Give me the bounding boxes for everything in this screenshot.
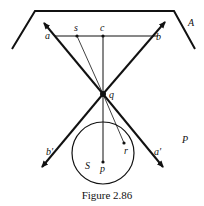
label-q: q (109, 89, 114, 100)
label-s: s (74, 22, 78, 33)
label-r: r (124, 145, 128, 156)
label-a: a (45, 30, 50, 41)
point-q (100, 91, 106, 97)
point-s (75, 34, 78, 37)
figure-caption: Figure 2.86 (82, 189, 133, 201)
label-c: c (100, 22, 105, 33)
label-b: b (156, 31, 161, 42)
label-S: S (85, 160, 90, 171)
line-sq (77, 36, 103, 94)
label-p: p (99, 163, 105, 174)
label-P: P (181, 134, 188, 145)
label-a-prime: a′ (154, 146, 162, 157)
figure-diagram: A a s c b q b′ a′ r S p P Figure 2.86 (0, 0, 204, 206)
line-qr (103, 94, 124, 143)
label-b-prime: b′ (46, 146, 54, 157)
point-c (101, 34, 104, 37)
arrow-q-to-a (44, 23, 103, 94)
label-A: A (187, 17, 195, 28)
